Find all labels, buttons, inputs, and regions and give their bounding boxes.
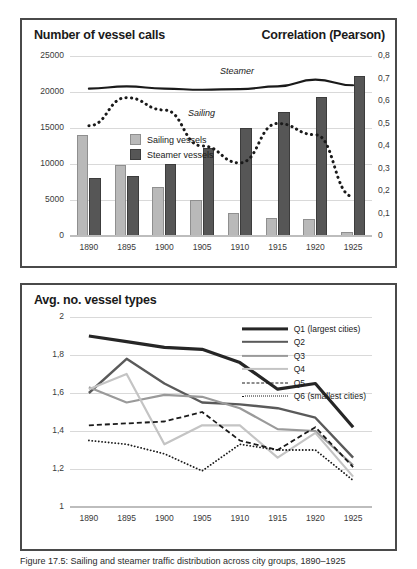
x-axis-tick-label: 1905: [193, 513, 212, 523]
series-line-Q6: [89, 441, 353, 481]
x-axis-tick-label: 1910: [230, 242, 249, 252]
legend-label-Q6: Q6 (smallest cities): [294, 391, 366, 401]
y-axis-right-tick-label: 0,1: [378, 209, 390, 218]
avg-vessel-types-plot-area: 11,21,41,61,82 1890189519001905191019151…: [70, 317, 372, 507]
legend-line-glyph-Q6: [242, 396, 288, 397]
x-axis-line-bottom: [70, 506, 372, 507]
legend-item-sailing: Sailing vessels: [130, 134, 214, 145]
steamer-correlation-line: [89, 80, 353, 90]
legend-item-Q6: Q6 (smallest cities): [242, 391, 366, 402]
sailing-line-label: Sailing: [188, 108, 215, 118]
y-axis-tick-label: 1: [59, 502, 64, 511]
correlation-lines: [70, 56, 372, 236]
y-axis-left-tick-label: 0: [59, 231, 64, 240]
legend-item-Q5: Q5: [242, 377, 366, 388]
legend-line-sample-Q2: [242, 337, 288, 348]
y-axis-left-tick-label: 10000: [40, 159, 64, 168]
legend-label-sailing: Sailing vessels: [147, 135, 207, 145]
x-axis-tick-label: 1925: [344, 242, 363, 252]
vessel-calls-title: Number of vessel calls: [34, 28, 165, 42]
legend-line-glyph-Q4: [242, 368, 288, 370]
legend-label-Q3: Q3: [294, 351, 305, 361]
x-axis-line-top: [70, 235, 372, 236]
legend-label-Q5: Q5: [294, 378, 305, 388]
x-axis-tick-label: 1920: [306, 513, 325, 523]
legend-line-glyph-Q1: [242, 327, 288, 330]
y-axis-left-tick-label: 5000: [45, 195, 64, 204]
quantile-legend: Q1 (largest cities)Q2Q3Q4Q5Q6 (smallest …: [242, 323, 366, 404]
legend-label-Q1: Q1 (largest cities): [294, 324, 361, 334]
legend-item-steamer: Steamer vessels: [130, 149, 214, 160]
legend-line-glyph-Q3: [242, 354, 288, 356]
legend-label-Q4: Q4: [294, 364, 305, 374]
bar-legend: Sailing vesselsSteamer vessels: [130, 134, 214, 164]
y-axis-right-tick-label: 0,6: [378, 96, 390, 105]
vessel-calls-chart-panel: Number of vessel calls Correlation (Pear…: [20, 18, 397, 268]
y-axis-tick-label: 1,4: [52, 426, 64, 435]
x-axis-tick-label: 1915: [268, 242, 287, 252]
y-axis-tick-label: 1,2: [52, 464, 64, 473]
legend-line-sample-Q5: [242, 377, 288, 388]
legend-line-glyph-Q2: [242, 341, 288, 343]
legend-line-sample-Q3: [242, 350, 288, 361]
x-axis-tick-label: 1910: [230, 513, 249, 523]
x-axis-tick-label: 1920: [306, 242, 325, 252]
vessel-calls-plot-area: 0500010000150002000025000 00,10,20,30,40…: [70, 56, 372, 236]
y-axis-tick-label: 1,6: [52, 388, 64, 397]
gridline: [70, 236, 372, 237]
y-axis-right-tick-label: 0,2: [378, 186, 390, 195]
gridline: [70, 507, 372, 508]
avg-vessel-types-title: Avg. no. vessel types: [34, 293, 156, 307]
x-axis-tick-label: 1900: [155, 513, 174, 523]
figure-container: Number of vessel calls Correlation (Pear…: [0, 0, 417, 569]
x-axis-tick-label: 1890: [79, 242, 98, 252]
y-axis-left-tick-label: 25000: [40, 51, 64, 60]
x-axis-tick-label: 1915: [268, 513, 287, 523]
y-axis-right-tick-label: 0,5: [378, 119, 390, 128]
series-line-Q5: [89, 412, 353, 467]
y-axis-tick-label: 1,8: [52, 350, 64, 359]
x-axis-tick-label: 1895: [117, 513, 136, 523]
x-axis-tick-label: 1895: [117, 242, 136, 252]
x-axis-tick-label: 1900: [155, 242, 174, 252]
legend-line-sample-Q1: [242, 323, 288, 334]
legend-item-Q4: Q4: [242, 364, 366, 375]
y-axis-left-tick-label: 20000: [40, 87, 64, 96]
figure-caption: Figure 17.5: Sailing and steamer traffic…: [20, 556, 417, 566]
legend-line-sample-Q4: [242, 364, 288, 375]
sailing-correlation-line: [89, 98, 353, 197]
steamer-line-label: Steamer: [220, 66, 254, 76]
legend-item-Q3: Q3: [242, 350, 366, 361]
legend-label-Q2: Q2: [294, 337, 305, 347]
y-axis-right-tick-label: 0,3: [378, 164, 390, 173]
y-axis-right-tick-label: 0,4: [378, 141, 390, 150]
correlation-axis-title: Correlation (Pearson): [261, 28, 385, 42]
legend-item-Q2: Q2: [242, 337, 366, 348]
y-axis-right-tick-label: 0,8: [378, 51, 390, 60]
legend-line-glyph-Q5: [242, 382, 288, 383]
legend-item-Q1: Q1 (largest cities): [242, 323, 366, 334]
legend-swatch-sailing: [130, 134, 141, 145]
y-axis-right-tick-label: 0,7: [378, 74, 390, 83]
x-axis-tick-label: 1905: [193, 242, 212, 252]
avg-vessel-types-chart-panel: Avg. no. vessel types 11,21,41,61,82 189…: [20, 283, 397, 551]
y-axis-left-tick-label: 15000: [40, 123, 64, 132]
y-axis-tick-label: 2: [59, 312, 64, 321]
y-axis-right-tick-label: 0: [378, 231, 383, 240]
x-axis-tick-label: 1925: [344, 513, 363, 523]
legend-label-steamer: Steamer vessels: [147, 150, 214, 160]
legend-line-sample-Q6: [242, 391, 288, 402]
legend-swatch-steamer: [130, 149, 141, 160]
x-axis-tick-label: 1890: [79, 513, 98, 523]
